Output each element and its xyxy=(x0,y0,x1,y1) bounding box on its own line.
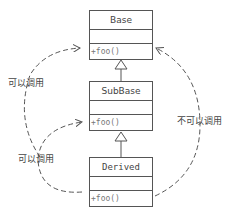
class-derived: Derived +foo() xyxy=(89,157,153,207)
class-subbase: SubBase +foo() xyxy=(89,81,153,131)
inheritance-arrow-derived-subbase xyxy=(115,132,127,157)
class-name: Base xyxy=(90,11,152,30)
class-name: Derived xyxy=(90,158,152,177)
call-arrow-subbase-base xyxy=(24,48,80,157)
class-operation: +foo() xyxy=(90,44,152,59)
label-subbase-calls-base: 可以调用 xyxy=(8,76,44,89)
class-attributes xyxy=(90,30,152,44)
class-attributes xyxy=(90,177,152,191)
class-attributes xyxy=(90,101,152,115)
label-derived-calls-subbase: 可以调用 xyxy=(18,152,54,165)
class-name: SubBase xyxy=(90,82,152,101)
class-operation: +foo() xyxy=(90,115,152,130)
class-base: Base +foo() xyxy=(89,10,153,60)
class-operation: +foo() xyxy=(90,191,152,206)
inheritance-arrow-subbase-base xyxy=(115,60,127,81)
label-derived-cannot-call-base: 不可以调用 xyxy=(177,114,222,127)
